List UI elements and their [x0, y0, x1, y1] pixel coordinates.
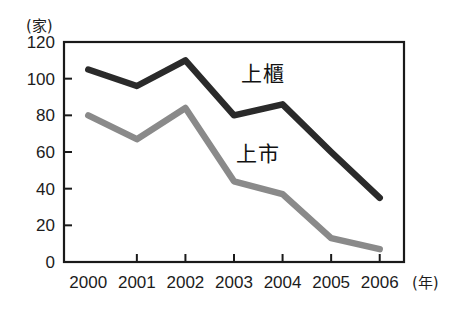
y-tick-label-20: 20: [36, 216, 55, 235]
x-axis-unit-label: (年): [412, 274, 439, 292]
y-axis-ticks: [64, 79, 72, 226]
y-tick-label-60: 60: [36, 143, 55, 162]
line-chart-canvas: 020406080100120 200020012002200320042005…: [0, 0, 466, 313]
y-axis-tick-labels: 020406080100120: [27, 33, 55, 272]
x-tick-label-2004: 2004: [264, 273, 302, 292]
y-tick-label-100: 100: [27, 70, 55, 89]
plot-frame: [64, 42, 404, 262]
chart-figure: 020406080100120 200020012002200320042005…: [0, 0, 466, 313]
x-tick-label-2002: 2002: [167, 273, 205, 292]
series-label-1: 上市: [236, 142, 280, 166]
y-tick-label-120: 120: [27, 33, 55, 52]
x-axis-ticks: [137, 254, 380, 262]
x-tick-label-2003: 2003: [215, 273, 253, 292]
y-tick-label-80: 80: [36, 106, 55, 125]
y-tick-label-40: 40: [36, 180, 55, 199]
y-tick-label-0: 0: [46, 253, 55, 272]
x-tick-label-2000: 2000: [69, 273, 107, 292]
x-tick-label-2006: 2006: [361, 273, 399, 292]
data-series-group: [88, 60, 379, 249]
y-axis-unit-label: (家): [26, 17, 53, 35]
series-line-1: [88, 108, 379, 249]
x-tick-label-2001: 2001: [118, 273, 156, 292]
x-tick-label-2005: 2005: [312, 273, 350, 292]
series-label-0: 上櫃: [241, 62, 285, 86]
x-axis-tick-labels: 2000200120022003200420052006: [69, 273, 398, 292]
